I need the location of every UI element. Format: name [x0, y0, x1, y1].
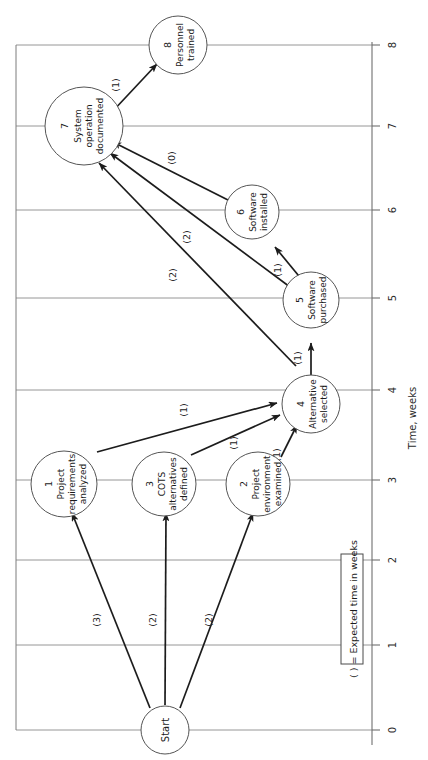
node-2[interactable]: 2 Project environment examined — [226, 452, 290, 516]
legend: ( ) = Expected time in weeks — [341, 540, 363, 678]
node-2-line-1: Project — [251, 468, 261, 499]
node-3-line-1: COTS — [157, 471, 167, 496]
node-6-line-1: Software — [248, 192, 258, 232]
tick-label-0: 0 — [387, 727, 398, 733]
node-4-line-1: Alternative — [308, 379, 318, 429]
tick-label-4: 4 — [387, 387, 398, 393]
node-1-line-3: analyzed — [78, 464, 88, 505]
node-7-number: 7 — [59, 123, 70, 129]
edges: (3) (2) (2) (1) (1) (1) (1) (1) (0) (2) … — [72, 64, 311, 708]
tick-label-3: 3 — [387, 477, 398, 483]
axis-title: Time, weeks — [407, 387, 418, 450]
node-6[interactable]: 6 Software installed — [225, 185, 279, 239]
node-start[interactable]: Start — [141, 706, 189, 754]
node-8-line-1: Personnel — [175, 23, 185, 67]
edge-label-start-to-3: (2) — [147, 613, 158, 626]
edge-start-to-3 — [165, 513, 166, 705]
node-3-line-3: defined — [179, 467, 189, 501]
node-5-number: 5 — [294, 297, 305, 303]
edge-label-3-to-4: (1) — [228, 436, 239, 449]
edge-start-to-2 — [180, 513, 253, 708]
edge-label-6-to-7: (0) — [166, 151, 177, 164]
tick-label-5: 5 — [387, 295, 398, 301]
node-4-number: 4 — [295, 401, 306, 407]
edge-label-1-to-4: (1) — [178, 403, 189, 416]
node-8[interactable]: 8 Personnel trained — [149, 16, 207, 74]
edge-2-to-4 — [281, 425, 297, 457]
node-1-line-2: requirements — [67, 454, 77, 515]
edge-label-5-to-7: (2) — [181, 230, 192, 243]
node-7-line-3: documented — [95, 98, 105, 155]
edge-start-to-1 — [72, 513, 150, 708]
node-2-line-3: examined — [273, 462, 283, 506]
figure-canvas: 8 7 6 5 4 3 2 1 0 Time, weeks (3) (2) (2… — [0, 0, 428, 760]
node-2-number: 2 — [238, 481, 249, 487]
node-8-number: 8 — [162, 42, 173, 48]
edge-label-4-to-7: (2) — [167, 268, 178, 281]
node-6-line-2: installed — [259, 193, 269, 231]
tick-label-8: 8 — [387, 42, 398, 48]
node-5-line-2: purchased — [318, 276, 328, 323]
edge-label-start-to-2: (2) — [203, 613, 214, 626]
node-8-line-2: trained — [186, 29, 196, 61]
tick-label-2: 2 — [387, 557, 398, 563]
node-3[interactable]: 3 COTS alternatives defined — [132, 452, 196, 516]
node-5[interactable]: 5 Software purchased — [283, 272, 339, 328]
node-6-number: 6 — [235, 209, 246, 215]
nodes: 8 Personnel trained 7 System operation d… — [31, 16, 340, 754]
tick-label-6: 6 — [387, 207, 398, 213]
node-1-number: 1 — [43, 481, 54, 487]
edge-label-start-to-1: (3) — [91, 613, 102, 626]
tick-label-1: 1 — [387, 642, 398, 648]
node-5-line-1: Software — [307, 280, 317, 320]
node-3-line-2: alternatives — [168, 457, 178, 511]
node-3-number: 3 — [144, 481, 155, 487]
edge-6-to-7 — [113, 142, 228, 200]
node-7[interactable]: 7 System operation documented — [45, 87, 123, 165]
node-4[interactable]: 4 Alternative selected — [282, 375, 340, 433]
node-7-line-2: operation — [84, 104, 94, 147]
network-diagram: 8 7 6 5 4 3 2 1 0 Time, weeks (3) (2) (2… — [0, 0, 428, 760]
time-axis: 8 7 6 5 4 3 2 1 0 Time, weeks — [372, 42, 418, 745]
node-7-line-1: System — [73, 109, 83, 143]
edge-label-7-to-8: (1) — [110, 78, 121, 91]
tick-label-7: 7 — [387, 123, 398, 129]
node-4-line-2: selected — [319, 385, 329, 423]
node-1-line-1: Project — [56, 468, 66, 499]
node-1[interactable]: 1 Project requirements analyzed — [31, 451, 97, 517]
node-start-label: Start — [160, 718, 171, 743]
node-2-line-2: environment — [262, 455, 272, 513]
legend-label: ( ) = Expected time in weeks — [348, 540, 359, 678]
